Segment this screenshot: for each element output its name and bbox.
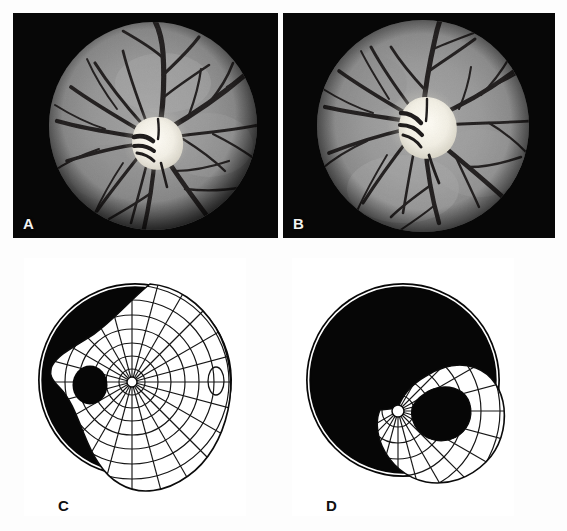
fixation-point-c xyxy=(127,377,137,387)
visual-field-chart-d xyxy=(292,258,514,516)
fixation-point-d xyxy=(392,405,404,417)
vignette-a xyxy=(49,22,257,230)
panel-label-c: C xyxy=(58,497,69,514)
panel-label-a: A xyxy=(23,215,34,232)
figure-root: A xyxy=(0,0,567,531)
fundus-image-a xyxy=(13,13,278,238)
blind-spot-c xyxy=(73,366,108,405)
panel-d-visual-field: D xyxy=(292,258,514,516)
panel-b-fundus-photograph: B xyxy=(283,13,555,238)
panel-label-b: B xyxy=(293,215,304,232)
fundus-image-b xyxy=(283,13,555,238)
visual-field-chart-c xyxy=(24,258,246,516)
panel-a-fundus-photograph: A xyxy=(13,13,278,238)
vignette-b xyxy=(317,20,529,232)
panel-label-d: D xyxy=(326,497,337,514)
panel-c-visual-field: C xyxy=(24,258,246,516)
